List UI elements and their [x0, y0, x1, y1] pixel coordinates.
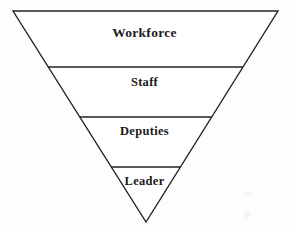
inverted-pyramid-diagram: Workforce Staff Deputies Leader [0, 0, 289, 231]
tier-label-deputies: Deputies [0, 125, 289, 138]
scan-artifact-speck [244, 191, 253, 195]
scan-artifact-speck [244, 211, 250, 218]
tier-label-leader: Leader [0, 175, 289, 188]
tier-label-staff: Staff [0, 76, 289, 89]
tier-label-workforce: Workforce [0, 26, 289, 40]
